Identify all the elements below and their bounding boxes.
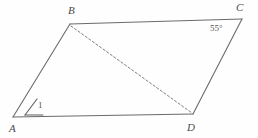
vertex-label-d: D [187,122,195,133]
diagonal-bd [71,26,192,113]
vertex-label-b: B [68,5,75,16]
angle-number-at-a: 1 [38,101,43,110]
edge-cd [193,19,242,114]
geometry-figure: A B C D 55° 1 [0,0,258,138]
angle-measure-at-c: 55° [210,24,223,33]
parallelogram-diagram [0,0,258,138]
vertex-label-a: A [9,123,16,134]
vertex-label-c: C [236,2,243,13]
